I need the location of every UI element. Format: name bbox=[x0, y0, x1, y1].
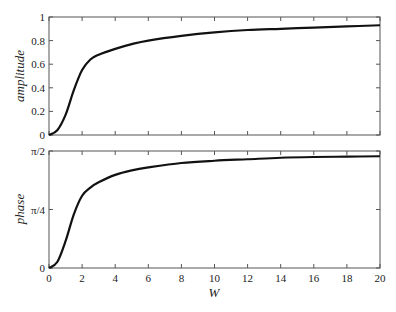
amplitude-y-axis-label: amplitude bbox=[12, 50, 27, 102]
phase-y-axis-label: phase bbox=[12, 194, 27, 226]
y-tick-label: 1 bbox=[40, 11, 46, 23]
y-tick-label: 0.4 bbox=[31, 82, 45, 94]
y-tick-label: 0.8 bbox=[31, 35, 45, 47]
amplitude-plot-frame bbox=[49, 17, 380, 135]
y-tick-label: 0 bbox=[40, 129, 46, 141]
x-tick-label: 20 bbox=[375, 272, 387, 284]
x-tick-label: 16 bbox=[308, 272, 320, 284]
x-tick-label: 2 bbox=[79, 272, 85, 284]
x-tick-label: 14 bbox=[275, 272, 287, 284]
x-tick-label: 4 bbox=[112, 272, 118, 284]
y-tick-label: π/2 bbox=[31, 145, 45, 157]
phase-ticks bbox=[49, 151, 380, 268]
amplitude-panel: 00.20.40.60.81 amplitude bbox=[12, 11, 380, 141]
y-tick-label: 0 bbox=[40, 262, 46, 274]
x-tick-label: 18 bbox=[341, 272, 353, 284]
y-tick-label: 0.2 bbox=[31, 105, 45, 117]
phase-plot-frame bbox=[49, 151, 380, 268]
phase-curve bbox=[49, 156, 380, 268]
amplitude-y-tick-labels: 00.20.40.60.81 bbox=[31, 11, 45, 141]
x-tick-label: 12 bbox=[242, 272, 253, 284]
x-tick-label: 10 bbox=[209, 272, 221, 284]
amplitude-ticks bbox=[49, 17, 380, 135]
y-tick-label: π/4 bbox=[31, 204, 46, 216]
amplitude-curve bbox=[49, 25, 380, 135]
x-tick-labels: 02468101214161820 bbox=[46, 272, 386, 284]
phase-y-tick-labels: 0π/4π/2 bbox=[31, 145, 46, 274]
x-tick-label: 0 bbox=[46, 272, 52, 284]
x-tick-label: 6 bbox=[146, 272, 152, 284]
x-axis-label: W bbox=[209, 285, 221, 300]
x-tick-label: 8 bbox=[179, 272, 185, 284]
y-tick-label: 0.6 bbox=[31, 58, 45, 70]
figure: 00.20.40.60.81 amplitude 0π/4π/2 0246810… bbox=[0, 0, 396, 312]
phase-panel: 0π/4π/2 02468101214161820 phase W bbox=[12, 145, 386, 300]
